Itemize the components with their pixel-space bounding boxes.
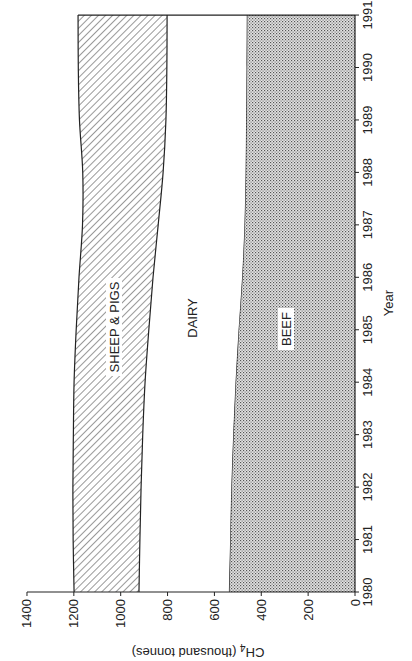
year-axis-title: Year — [381, 289, 396, 316]
area-beef — [229, 15, 355, 592]
year-tick-label: 1983 — [360, 420, 375, 449]
sheep-pigs-label: SHEEP & PIGS — [107, 281, 122, 372]
value-tick-label: 1200 — [66, 599, 81, 628]
year-tick-label: 1980 — [360, 578, 375, 607]
year-tick-label: 1981 — [360, 525, 375, 554]
stacked-area-chart: 0200400600800100012001400198019811982198… — [0, 0, 412, 661]
value-axis-title: CH4 (thousand tonnes) — [132, 642, 265, 660]
year-tick-label: 1989 — [360, 105, 375, 134]
value-tick-label: 800 — [160, 599, 175, 621]
year-tick-label: 1982 — [360, 473, 375, 502]
value-tick-label: 1000 — [113, 599, 128, 628]
year-tick-label: 1990 — [360, 53, 375, 82]
value-tick-label: 400 — [254, 599, 269, 621]
year-tick-label: 1991 — [360, 1, 375, 30]
dairy-label: DAIRY — [185, 298, 200, 338]
year-tick-label: 1987 — [360, 210, 375, 239]
year-tick-label: 1984 — [360, 368, 375, 397]
year-tick-label: 1985 — [360, 315, 375, 344]
year-tick-label: 1988 — [360, 158, 375, 187]
year-tick-label: 1986 — [360, 263, 375, 292]
value-tick-label: 1400 — [19, 599, 34, 628]
value-tick-label: 200 — [301, 599, 316, 621]
value-tick-label: 600 — [207, 599, 222, 621]
beef-label: BEEF — [279, 312, 294, 346]
